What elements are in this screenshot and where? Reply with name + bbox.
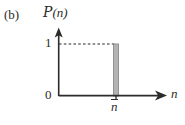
plot-area bbox=[0, 0, 185, 125]
figure-panel-b: (b) P(n) 1 0 n n bbox=[0, 0, 185, 125]
bar-spike-nbar bbox=[114, 44, 119, 96]
